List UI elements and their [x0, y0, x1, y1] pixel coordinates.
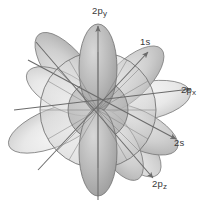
- orbital-diagram-figure: 2py 1s 2px 2s 2pz: [0, 0, 208, 210]
- axis-label-1s: 1s: [140, 36, 150, 47]
- axis-label-2pz: 2pz: [152, 178, 167, 191]
- axis-label-2s: 2s: [174, 137, 184, 148]
- axis-label-2py: 2py: [92, 5, 107, 18]
- orbital-diagram-svg: 2py 1s 2px 2s 2pz: [0, 0, 208, 210]
